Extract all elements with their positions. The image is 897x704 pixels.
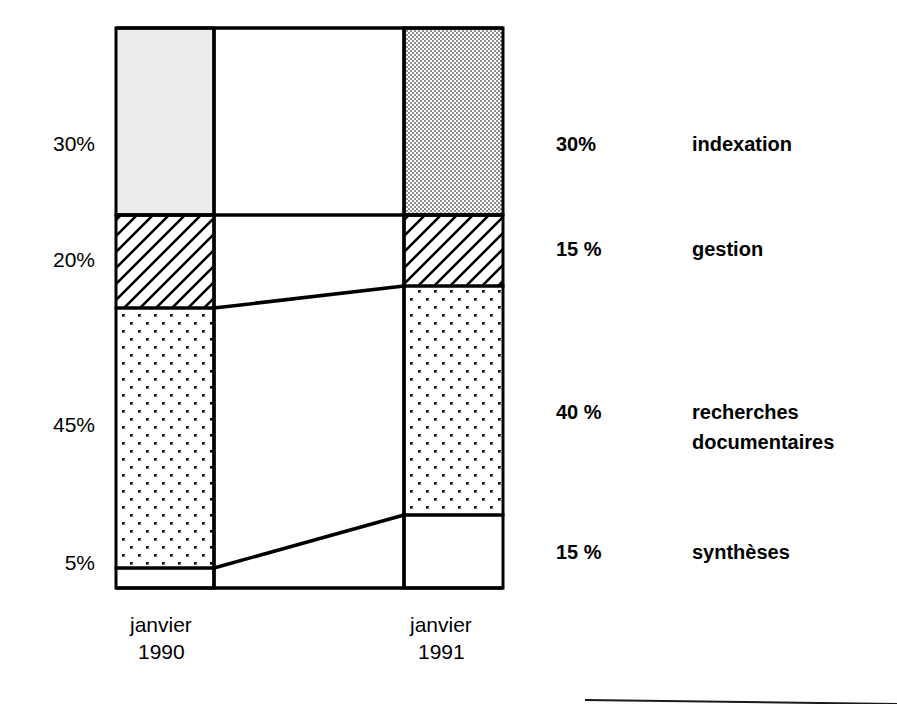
legend-label-recherches-line1: recherches (692, 401, 799, 423)
band-right-recherches (404, 286, 503, 515)
legend-percent-gestion: 15 % (556, 238, 602, 260)
band-left-recherches (116, 308, 214, 568)
bar-janvier-1991 (404, 28, 503, 588)
category-label-1991-month: janvier (409, 613, 472, 636)
band-right-gestion (404, 215, 503, 286)
legend-percent-syntheses: 15 % (556, 541, 602, 563)
band-left-gestion (116, 215, 214, 308)
legend-label-gestion: gestion (692, 238, 763, 260)
legend-item-indexation: 30% indexation (556, 133, 792, 155)
left-axis-label-gestion: 20% (53, 248, 95, 271)
category-label-group: janvier 1990 janvier 1991 (129, 613, 472, 663)
band-left-syntheses (116, 568, 214, 588)
band-left-indexation (116, 28, 214, 215)
bar-janvier-1990 (116, 28, 214, 588)
connector-recherches-syntheses (214, 515, 404, 568)
footer-rule (585, 700, 897, 704)
left-axis-label-group: 30% 20% 45% 5% (53, 132, 95, 574)
legend-percent-recherches: 40 % (556, 401, 602, 423)
category-label-1991-year: 1991 (418, 640, 465, 663)
connector-gestion-recherches (214, 286, 404, 308)
band-right-indexation (404, 28, 503, 215)
category-label-1990-month: janvier (129, 613, 192, 636)
legend-label-syntheses: synthèses (692, 541, 790, 563)
left-axis-label-syntheses: 5% (65, 551, 95, 574)
band-right-syntheses (404, 515, 503, 588)
legend-percent-indexation: 30% (556, 133, 596, 155)
category-label-1990-year: 1990 (138, 640, 185, 663)
legend-item-gestion: 15 % gestion (556, 238, 763, 260)
legend: 30% indexation 15 % gestion 40 % recherc… (556, 133, 834, 563)
left-axis-label-recherches: 45% (53, 413, 95, 436)
stacked-band-chart-figure: 30% 20% 45% 5% (0, 0, 897, 704)
left-axis-label-indexation: 30% (53, 132, 95, 155)
chart-svg: 30% 20% 45% 5% (0, 0, 897, 704)
legend-item-syntheses: 15 % synthèses (556, 541, 790, 563)
legend-label-indexation: indexation (692, 133, 792, 155)
legend-label-recherches-line2: documentaires (692, 431, 834, 453)
legend-item-recherches: 40 % recherches documentaires (556, 401, 834, 453)
